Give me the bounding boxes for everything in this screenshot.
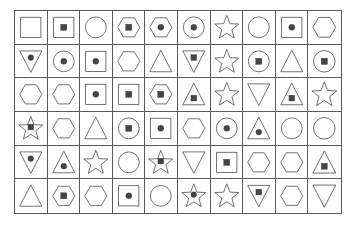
inner-square-icon — [158, 158, 164, 164]
hexagon-icon — [52, 85, 74, 104]
triangle-up-icon — [313, 151, 336, 173]
square-icon — [21, 17, 41, 37]
triangle-up-icon — [20, 185, 42, 206]
circle-icon — [249, 17, 270, 38]
circle-icon — [86, 17, 107, 38]
grid-cell-r5-c8 — [243, 146, 276, 180]
inner-circle-icon — [93, 92, 99, 98]
grid-cell-r1-c7 — [211, 11, 244, 45]
hexagon-icon — [118, 51, 140, 70]
inner-circle-icon — [60, 58, 66, 64]
inner-circle-icon — [191, 24, 197, 30]
inner-square-icon — [60, 24, 66, 30]
hexagon-icon — [20, 85, 42, 104]
grid-cell-r3-c8 — [243, 78, 276, 112]
grid-cell-r5-c7 — [211, 146, 244, 180]
triangle-up-icon — [248, 117, 270, 138]
grid-cell-r6-c7 — [211, 179, 244, 213]
inner-square-icon — [60, 193, 66, 199]
grid-cell-r2-c8 — [243, 45, 276, 79]
grid-cell-r3-c2 — [48, 78, 81, 112]
triangle-up-icon — [281, 50, 303, 71]
grid-cell-r6-c10 — [308, 179, 341, 213]
grid-cell-r1-c6 — [178, 11, 211, 45]
inner-circle-icon — [289, 24, 295, 30]
triangle-up-icon — [150, 50, 172, 71]
grid-cell-r2-c9 — [276, 45, 309, 79]
triangle-down-icon — [248, 186, 270, 207]
grid-cell-r3-c10 — [308, 78, 341, 112]
grid-cell-r2-c6 — [178, 45, 211, 79]
inner-square-icon — [126, 92, 132, 98]
hexagon-icon — [85, 187, 107, 206]
inner-circle-icon — [223, 125, 229, 131]
grid-cell-r3-c4 — [113, 78, 146, 112]
grid-cell-r1-c3 — [80, 11, 113, 45]
grid-cell-r2-c1 — [15, 45, 48, 79]
inner-circle-icon — [158, 24, 164, 30]
grid-cell-r5-c5 — [145, 146, 178, 180]
grid-cell-r5-c6 — [178, 146, 211, 180]
grid-cell-r6-c5 — [145, 179, 178, 213]
grid-cell-r1-c8 — [243, 11, 276, 45]
grid-cell-r2-c10 — [308, 45, 341, 79]
grid-cell-r5-c10 — [308, 146, 341, 180]
inner-square-icon — [28, 124, 34, 130]
inner-circle-icon — [191, 192, 197, 198]
grid-cell-r2-c2 — [48, 45, 81, 79]
triangle-up-icon — [85, 117, 107, 138]
grid-cell-r1-c9 — [276, 11, 309, 45]
inner-square-icon — [158, 92, 164, 98]
grid-cell-r4-c6 — [178, 112, 211, 146]
star-icon — [214, 184, 238, 207]
triangle-up-icon — [52, 151, 74, 172]
grid-cell-r4-c9 — [276, 112, 309, 146]
triangle-down-icon — [183, 152, 205, 173]
grid-cell-r4-c7 — [211, 112, 244, 146]
hexagon-icon — [281, 187, 303, 206]
grid-cell-r5-c1 — [15, 146, 48, 180]
hexagon-icon — [248, 152, 270, 171]
star-icon — [312, 82, 337, 106]
inner-circle-icon — [28, 155, 34, 161]
star-icon — [214, 83, 238, 106]
grid-cell-r6-c2 — [48, 179, 81, 213]
triangle-down-icon — [313, 185, 336, 207]
triangle-down-icon — [248, 84, 270, 105]
circle-icon — [151, 186, 172, 207]
grid-cell-r3-c1 — [15, 78, 48, 112]
grid-cell-r6-c6 — [178, 179, 211, 213]
grid-cell-r2-c3 — [80, 45, 113, 79]
grid-cell-r3-c3 — [80, 78, 113, 112]
inner-circle-icon — [256, 129, 262, 135]
grid-cell-r1-c5 — [145, 11, 178, 45]
grid-cell-r4-c3 — [80, 112, 113, 146]
grid-cell-r3-c7 — [211, 78, 244, 112]
grid-cell-r5-c4 — [113, 146, 146, 180]
inner-circle-icon — [28, 54, 34, 60]
triangle-down-icon — [20, 51, 42, 72]
grid-cell-r2-c7 — [211, 45, 244, 79]
grid-cell-r5-c9 — [276, 146, 309, 180]
inner-square-icon — [126, 125, 132, 131]
circle-icon — [281, 118, 302, 139]
grid-cell-r4-c4 — [113, 112, 146, 146]
grid-cell-r2-c5 — [145, 45, 178, 79]
grid-cell-r1-c1 — [15, 11, 48, 45]
circle-icon — [118, 152, 139, 173]
grid-cell-r5-c3 — [80, 146, 113, 180]
grid-cell-r4-c10 — [308, 112, 341, 146]
hexagon-icon — [183, 119, 205, 138]
inner-circle-icon — [158, 125, 164, 131]
inner-square-icon — [322, 58, 328, 64]
grid-cell-r4-c2 — [48, 112, 81, 146]
grid-cell-r6-c3 — [80, 179, 113, 213]
shape-grid-image — [0, 0, 356, 226]
inner-square-icon — [289, 96, 295, 102]
inner-circle-icon — [61, 163, 67, 169]
grid-cell-r1-c4 — [113, 11, 146, 45]
hexagon-icon — [313, 17, 336, 37]
grid-cell-r3-c9 — [276, 78, 309, 112]
inner-circle-icon — [93, 58, 99, 64]
inner-square-icon — [191, 54, 197, 60]
